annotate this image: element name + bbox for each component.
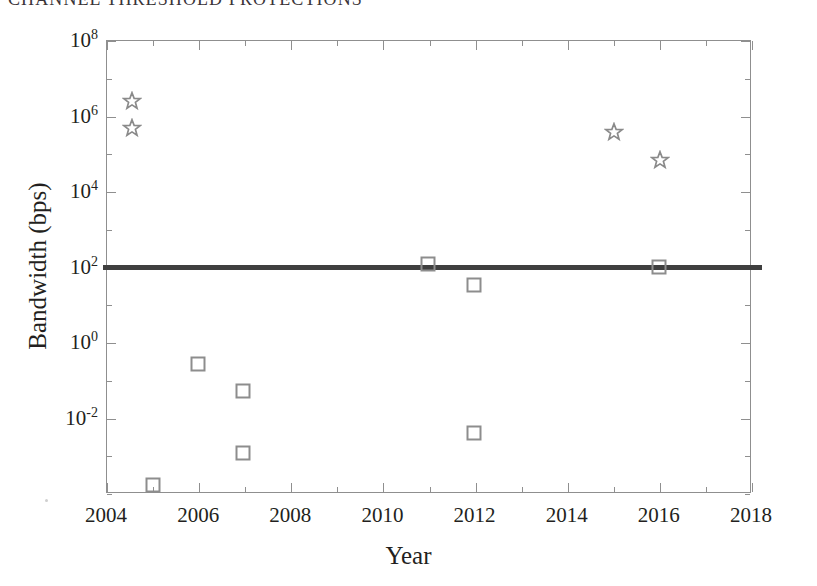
x-tick-label: 2008 (269, 503, 311, 528)
x-tick-label: 2010 (361, 503, 403, 528)
x-major-tick (291, 41, 292, 50)
x-axis-title: Year (0, 542, 817, 570)
y-major-tick (741, 41, 750, 42)
y-tick-mantissa: 10 (70, 254, 91, 278)
x-minor-tick (430, 487, 431, 492)
data-point-square (421, 257, 436, 272)
data-point-square (467, 278, 482, 293)
y-tick-mantissa: 10 (70, 179, 91, 203)
y-axis-title: Bandwidth (bps) (24, 136, 52, 396)
x-minor-tick (522, 487, 523, 492)
y-minor-tick (107, 230, 112, 231)
x-minor-tick (337, 41, 338, 46)
x-major-tick (752, 483, 753, 492)
x-major-tick (383, 41, 384, 50)
y-major-tick (107, 419, 116, 420)
y-major-tick (741, 419, 750, 420)
x-major-tick (476, 41, 477, 50)
y-minor-tick (745, 79, 750, 80)
y-minor-tick (745, 494, 750, 495)
x-minor-tick (706, 41, 707, 46)
y-tick-exponent: 6 (91, 102, 98, 117)
y-tick-exponent: 8 (91, 27, 98, 42)
running-head: CHANNEL THRESHOLD PROTECTIONS (0, 0, 817, 13)
data-point-star (122, 91, 142, 111)
y-major-tick (741, 343, 750, 344)
x-major-tick (107, 483, 108, 492)
data-point-star (650, 150, 670, 170)
y-minor-tick (745, 456, 750, 457)
y-tick-mantissa: 10 (70, 330, 91, 354)
y-major-tick (107, 343, 116, 344)
x-minor-tick (614, 41, 615, 46)
y-major-tick (741, 192, 750, 193)
y-minor-tick (107, 456, 112, 457)
x-minor-tick (245, 487, 246, 492)
x-major-tick (383, 483, 384, 492)
x-tick-label: 2014 (546, 503, 588, 528)
x-major-tick (660, 41, 661, 50)
x-major-tick (752, 41, 753, 50)
data-point-square (236, 384, 251, 399)
x-major-tick (199, 483, 200, 492)
x-minor-tick (430, 41, 431, 46)
y-minor-tick (745, 154, 750, 155)
data-point-square (652, 260, 667, 275)
y-tick-mantissa: 10 (70, 103, 91, 127)
x-minor-tick (522, 41, 523, 46)
x-major-tick (199, 41, 200, 50)
y-tick-mantissa: 10 (65, 405, 86, 429)
figure-page: CHANNEL THRESHOLD PROTECTIONS 2004200620… (0, 0, 817, 586)
y-minor-tick (107, 381, 112, 382)
y-major-tick (107, 117, 116, 118)
plot-frame (106, 40, 751, 493)
data-point-square (467, 426, 482, 441)
x-major-tick (107, 41, 108, 50)
y-major-tick (107, 41, 116, 42)
y-major-tick (107, 192, 116, 193)
data-point-square (146, 478, 161, 493)
y-tick-exponent: 4 (91, 178, 98, 193)
y-tick-exponent: 0 (91, 329, 98, 344)
x-major-tick (476, 483, 477, 492)
y-tick-exponent: -2 (86, 404, 98, 419)
y-minor-tick (745, 381, 750, 382)
y-tick-label: 106 (40, 103, 98, 128)
x-major-tick (568, 41, 569, 50)
x-major-tick (660, 483, 661, 492)
x-minor-tick (614, 487, 615, 492)
x-minor-tick (706, 487, 707, 492)
y-minor-tick (107, 494, 112, 495)
data-point-square (236, 446, 251, 461)
data-point-square (191, 357, 206, 372)
x-tick-label: 2004 (85, 503, 127, 528)
y-minor-tick (107, 154, 112, 155)
x-major-tick (568, 483, 569, 492)
y-minor-tick (745, 230, 750, 231)
y-major-tick (741, 117, 750, 118)
x-tick-label: 2012 (454, 503, 496, 528)
y-tick-label: 108 (40, 28, 98, 53)
data-point-star (122, 118, 142, 138)
y-minor-tick (107, 79, 112, 80)
y-tick-mantissa: 10 (70, 28, 91, 52)
y-minor-tick (745, 305, 750, 306)
data-point-star (604, 122, 624, 142)
x-tick-label: 2018 (730, 503, 772, 528)
x-minor-tick (337, 487, 338, 492)
running-head-text: CHANNEL THRESHOLD PROTECTIONS (8, 0, 363, 10)
y-tick-exponent: 2 (91, 253, 98, 268)
x-tick-label: 2006 (177, 503, 219, 528)
x-minor-tick (245, 41, 246, 46)
x-minor-tick (153, 41, 154, 46)
y-tick-label: 10-2 (40, 405, 98, 430)
y-minor-tick (107, 305, 112, 306)
x-tick-label: 2016 (638, 503, 680, 528)
x-major-tick (291, 483, 292, 492)
scan-artifact-dot (45, 499, 48, 502)
